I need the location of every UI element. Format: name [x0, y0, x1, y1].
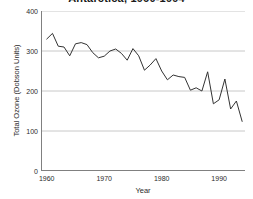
x-tick-label: 1970 [84, 175, 124, 182]
x-tick-label: 1980 [142, 175, 182, 182]
x-tick-label: 1960 [27, 175, 67, 182]
x-tick-label: 1990 [199, 175, 239, 182]
ozone-line-chart-figure: Antarctica, 1960-1994 Total Ozone (Dobso… [0, 0, 253, 199]
x-axis-title: Year [41, 186, 245, 195]
x-axis-tick-labels: 1960197019801990 [0, 0, 253, 199]
